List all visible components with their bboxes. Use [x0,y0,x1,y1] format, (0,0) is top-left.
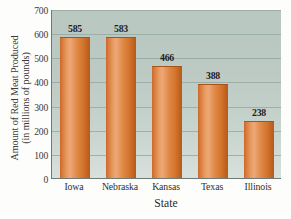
bar-value-label: 238 [252,107,266,118]
bar[interactable] [198,84,228,178]
bar-chart-figure: Amount of Red Meat Produced (in millions… [0,0,291,219]
bar-value-label: 466 [160,52,174,63]
y-tick-label: 200 [22,125,48,136]
plot-area: 585583466388238 [51,10,281,179]
bar-slot: 585 [52,10,98,178]
x-tick-label: Illinois [245,181,272,192]
y-tick-label: 0 [22,174,48,185]
bar-value-label: 583 [114,23,128,34]
y-tick-label: 500 [22,53,48,64]
bar[interactable] [106,37,136,178]
x-axis-title: State [51,197,281,210]
y-tick-label: 700 [22,5,48,16]
y-tick-label: 100 [22,149,48,160]
bar-slot: 388 [190,10,236,178]
bars-layer: 585583466388238 [52,10,281,178]
bar[interactable] [152,66,182,179]
bar-value-label: 585 [68,23,82,34]
x-tick-label: Iowa [64,181,83,192]
x-tick-label: Texas [201,181,223,192]
y-tick-label: 300 [22,101,48,112]
bar-value-label: 388 [206,70,220,81]
y-axis-tick-labels: 0100200300400500600700 [22,8,48,181]
bar-slot: 466 [144,10,190,178]
x-tick-label: Kansas [152,181,180,192]
y-tick-label: 400 [22,77,48,88]
y-axis-title-line1: Amount of Red Meat Produced [9,9,20,187]
x-tick-label: Nebraska [102,181,138,192]
x-axis-tick-labels: IowaNebraskaKansasTexasIllinois [51,181,281,196]
bar-slot: 583 [98,10,144,178]
bar-slot: 238 [236,10,281,178]
bar[interactable] [60,37,90,178]
y-tick-label: 600 [22,29,48,40]
bar[interactable] [244,121,274,178]
